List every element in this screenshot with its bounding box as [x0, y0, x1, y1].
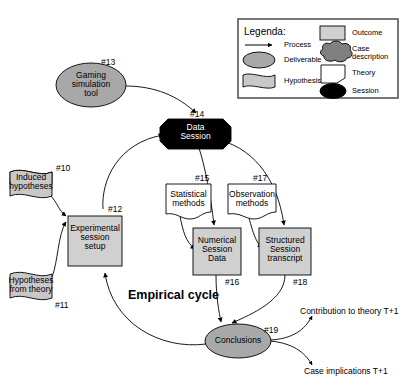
tag-17: #17 — [253, 173, 267, 183]
tag-18: #18 — [293, 277, 307, 287]
legend-heading: Legenda: — [244, 26, 286, 37]
edge-n19-to-out-case — [270, 341, 312, 365]
node-numerical-session-data[interactable] — [193, 228, 241, 275]
diagram-graphics — [0, 0, 408, 388]
node-data-session[interactable] — [160, 119, 231, 149]
diagram-canvas: Gaming simulation tool #13 Data Session … — [0, 0, 408, 388]
tag-12: #12 — [108, 204, 122, 214]
legend-session-icon — [320, 84, 346, 99]
edge-n13-to-n14 — [125, 86, 196, 113]
node-experimental-session-setup[interactable] — [68, 216, 122, 266]
edge-n10-to-n12 — [50, 195, 66, 216]
edge-n11-to-n12 — [52, 222, 66, 277]
node-statistical-methods[interactable] — [166, 184, 211, 219]
tag-16: #16 — [225, 277, 239, 287]
tag-13: #13 — [101, 57, 115, 67]
legend-theory-icon — [321, 65, 345, 83]
legend-outcome-icon — [320, 26, 345, 40]
output-contribution-to-theory: Contribution to theory T+1 — [300, 306, 398, 316]
legend-label-process: Process — [284, 41, 311, 49]
node-gaming-simulation-tool[interactable] — [56, 63, 126, 107]
legend-label-case-description: Case description — [352, 45, 388, 62]
output-case-implications: Case implications T+1 — [304, 366, 388, 376]
tag-19: #19 — [264, 325, 278, 335]
edge-n19-to-n12 — [105, 273, 206, 345]
tag-11: #11 — [55, 300, 69, 310]
tag-10: #10 — [56, 163, 70, 173]
node-conclusions[interactable] — [205, 324, 271, 358]
tag-14: #14 — [190, 109, 204, 119]
empirical-cycle-title: Empirical cycle — [128, 288, 219, 302]
legend-deliverable-icon — [243, 52, 275, 68]
legend-label-outcome: Outcome — [352, 29, 382, 37]
node-observation-methods[interactable] — [228, 184, 276, 219]
legend-label-hypothesis: Hypothesis — [284, 77, 321, 85]
edge-n12-to-n14 — [103, 135, 163, 209]
legend-label-theory: Theory — [352, 69, 375, 77]
legend-label-deliverable: Deliverable — [284, 56, 322, 64]
node-induced-hypotheses-body[interactable] — [10, 170, 52, 197]
legend-hypothesis-icon — [243, 74, 275, 88]
tag-15: #15 — [195, 173, 209, 183]
node-structured-session-transcript[interactable] — [259, 228, 311, 275]
legend-label-session: Session — [352, 87, 379, 95]
edge-n18-to-n19 — [232, 275, 285, 323]
node-hypotheses-from-theory[interactable] — [10, 272, 52, 299]
